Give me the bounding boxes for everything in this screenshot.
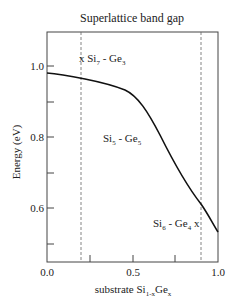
x-tick-label-0.0: 0.0 — [40, 266, 54, 278]
annotation-si7-ge3: x Si7 - Ge3 — [79, 52, 126, 67]
y-axis-label: Energy (eV) — [10, 124, 23, 179]
x-tick-label-0.5: 0.5 — [126, 266, 140, 278]
y-ticks — [47, 66, 54, 244]
y-tick-label-0.6: 0.6 — [30, 202, 44, 214]
chart-title: Superlattice band gap — [80, 11, 184, 25]
band-gap-chart: Superlattice band gap 1.0 0.8 0.6 0.0 0.… — [0, 0, 236, 304]
y-tick-label-0.8: 0.8 — [30, 131, 44, 143]
x-axis-label: substrate Si1-xGex — [95, 283, 172, 298]
x-tick-label-1.0: 1.0 — [211, 266, 225, 278]
band-gap-curve — [47, 73, 218, 232]
annotation-si5-ge5: Si5 - Ge5 — [103, 132, 142, 147]
annotation-si6-ge4: Si6 - Ge4 x — [153, 217, 200, 232]
y-tick-label-1.0: 1.0 — [30, 60, 44, 72]
x-ticks — [90, 255, 175, 262]
